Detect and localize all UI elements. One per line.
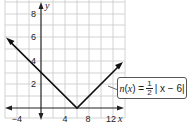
x-axis	[5, 106, 124, 111]
function-graph: −4 4 8 12 x 2 4 6 8 y	[0, 0, 192, 125]
x-tick-label: 4	[62, 114, 67, 124]
x-axis-label: x	[117, 113, 123, 124]
y-tick-label: 8	[31, 9, 36, 19]
x-tick-label: −4	[12, 114, 22, 124]
y-axis-label: y	[44, 0, 50, 11]
function-label-callout: n(x) = 1 2 | x − 6|	[117, 77, 187, 99]
fraction-denominator: 2	[147, 89, 151, 97]
grid	[5, 0, 125, 118]
y-tick-label: 4	[31, 56, 36, 66]
fraction: 1 2	[146, 80, 152, 97]
y-tick-label: 2	[31, 79, 36, 89]
y-tick-label: 6	[31, 32, 36, 42]
x-tick-label: 12	[106, 114, 116, 124]
paren-close: )	[132, 83, 135, 94]
x-tick-label: 8	[85, 114, 90, 124]
equals-sign: =	[138, 83, 144, 94]
absolute-value-expression: | x − 6|	[155, 83, 185, 94]
